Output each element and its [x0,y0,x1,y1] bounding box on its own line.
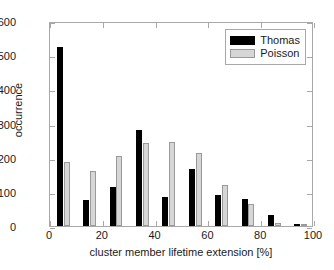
x-tick-mark-80 [261,221,262,226]
bar-thomas-70-80 [242,199,248,226]
figure-canvas: Thomas Poisson 0100200300400500600020406… [0,0,334,270]
bar-poisson-20-30 [116,156,122,226]
x-tick-mark-100 [314,23,315,28]
y-tick-mark-300 [307,126,312,127]
y-axis-label: occurrence [12,50,24,170]
y-tick-mark-100 [50,194,55,195]
bar-thomas-30-40 [136,130,142,226]
y-tick-mark-300 [50,126,55,127]
y-tick-mark-200 [307,160,312,161]
y-tick-label-600: 600 [0,17,16,28]
x-tick-mark-40 [156,221,157,226]
y-tick-mark-400 [307,91,312,92]
plot-area: Thomas Poisson [49,22,313,227]
bar-poisson-90-100 [301,224,307,226]
bar-thomas-10-20 [83,200,89,226]
bar-poisson-80-90 [275,223,281,226]
bar-poisson-30-40 [143,143,149,226]
x-tick-mark-0 [50,23,51,28]
x-tick-label-60: 60 [187,230,227,241]
x-tick-label-20: 20 [82,230,122,241]
legend-label-poisson: Poisson [260,48,299,59]
x-tick-mark-20 [103,23,104,28]
bar-poisson-40-50 [169,142,175,226]
bar-poisson-50-60 [196,153,202,226]
x-axis-label: cluster member lifetime extension [%] [49,246,313,258]
y-tick-mark-500 [50,57,55,58]
x-tick-mark-60 [208,23,209,28]
legend-label-thomas: Thomas [260,35,300,46]
y-tick-label-100: 100 [0,188,16,199]
x-tick-label-100: 100 [293,230,333,241]
x-tick-mark-0 [50,221,51,226]
x-tick-mark-100 [314,221,315,226]
bar-thomas-40-50 [162,197,168,226]
y-tick-mark-200 [50,160,55,161]
y-tick-mark-400 [50,91,55,92]
bar-poisson-10-20 [90,171,96,226]
bar-thomas-60-70 [215,195,221,226]
chart-legend: Thomas Poisson [225,29,306,65]
y-tick-label-0: 0 [0,222,16,233]
bar-thomas-20-30 [110,187,116,226]
legend-swatch-poisson [230,49,255,58]
bar-thomas-50-60 [189,169,195,226]
x-tick-label-80: 80 [240,230,280,241]
x-tick-mark-60 [208,221,209,226]
x-tick-label-40: 40 [135,230,175,241]
legend-item-thomas: Thomas [230,34,300,47]
bar-thomas-0-10 [57,47,63,226]
x-tick-label-0: 0 [29,230,69,241]
y-tick-mark-100 [307,194,312,195]
x-tick-mark-20 [103,221,104,226]
x-tick-mark-40 [156,23,157,28]
bar-poisson-60-70 [222,185,228,226]
y-tick-mark-600 [307,23,312,24]
x-tick-mark-80 [261,23,262,28]
legend-swatch-thomas [230,36,255,45]
legend-item-poisson: Poisson [230,47,300,60]
y-tick-mark-500 [307,57,312,58]
bar-thomas-80-90 [268,215,274,226]
bar-poisson-0-10 [64,162,70,226]
bar-poisson-70-80 [248,204,254,226]
bar-thomas-90-100 [294,224,300,226]
